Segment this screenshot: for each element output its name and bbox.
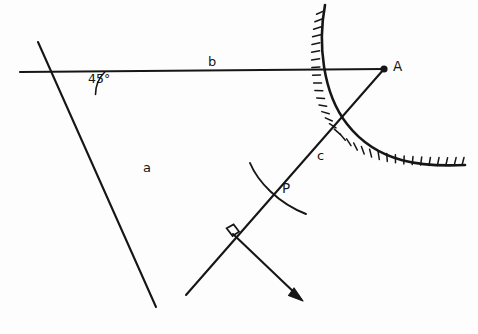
diagram-canvas: 45° a b c A P (0, 0, 478, 334)
hatch-marks (312, 11, 464, 166)
angle-label-45: 45° (88, 71, 110, 86)
line-c-label: c (317, 148, 324, 163)
point-a-label: A (393, 58, 403, 74)
perpendicular-ray-with-arrow (233, 234, 299, 297)
geometry-diagram: 45° a b c A P (0, 0, 478, 334)
hatched-boundary-curve (312, 5, 465, 166)
line-b-label: b (208, 54, 216, 69)
point-p-label: P (282, 180, 290, 196)
ray-helper (156, 297, 298, 307)
line-a-label: a (143, 160, 151, 175)
line-b-horizontal (20, 69, 384, 72)
boundary-curve-path (322, 5, 465, 165)
point-a-dot (380, 65, 387, 72)
